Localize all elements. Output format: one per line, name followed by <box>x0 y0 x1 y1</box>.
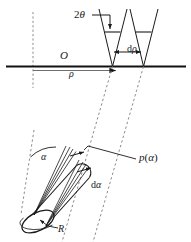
label-rho: ρ <box>69 69 74 79</box>
label-d-alpha: dα <box>91 180 101 190</box>
label-origin: O <box>60 50 68 61</box>
d-alpha-symbol: α <box>96 179 101 190</box>
two-theta-symbol: θ <box>80 8 85 20</box>
fiber-axis-reference <box>21 130 34 214</box>
label-alpha: α <box>41 152 46 162</box>
p-alpha-leader-line <box>84 146 136 159</box>
fiber-cylinder <box>18 164 91 238</box>
label-two-theta: 2θ <box>74 9 85 20</box>
scattering-cone-left <box>99 9 127 67</box>
diagram-svg <box>0 0 191 242</box>
scattering-cone-right <box>130 9 158 67</box>
fiber-end-ellipse <box>18 205 57 237</box>
label-d-rho: dρ <box>127 44 137 54</box>
label-radius: R <box>58 224 64 234</box>
d-rho-symbol: ρ <box>132 43 137 54</box>
p-close-paren: ) <box>154 151 158 163</box>
label-p-alpha: p(α) <box>139 152 158 163</box>
figure-canvas: 2θ dρ O ρ p(α) dα α R <box>0 0 191 242</box>
